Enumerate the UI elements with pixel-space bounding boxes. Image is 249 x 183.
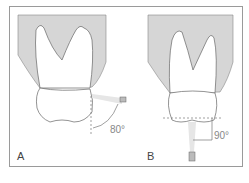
tooth-crown-b bbox=[168, 91, 216, 122]
xray-tube-a bbox=[120, 97, 126, 102]
panel-label-a: A bbox=[17, 150, 24, 162]
xray-beam-b bbox=[188, 122, 196, 152]
tooth-diagram bbox=[0, 0, 249, 183]
xray-tube-b bbox=[189, 152, 195, 161]
angle-label-a: 80° bbox=[110, 124, 125, 135]
xray-beam-a bbox=[92, 94, 122, 104]
tooth-crown-a bbox=[36, 88, 92, 122]
panel-label-b: B bbox=[147, 150, 154, 162]
angle-label-b: 90° bbox=[214, 130, 229, 141]
